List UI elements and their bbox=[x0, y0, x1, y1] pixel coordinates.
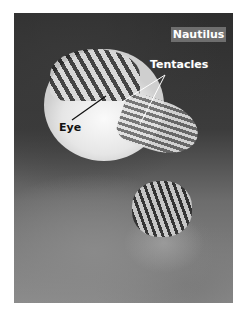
tentacles-label: Tentacles bbox=[150, 58, 208, 71]
title-label: Nautilus bbox=[171, 27, 226, 42]
eye-label: Eye bbox=[59, 121, 81, 134]
callout-lines bbox=[0, 0, 243, 310]
